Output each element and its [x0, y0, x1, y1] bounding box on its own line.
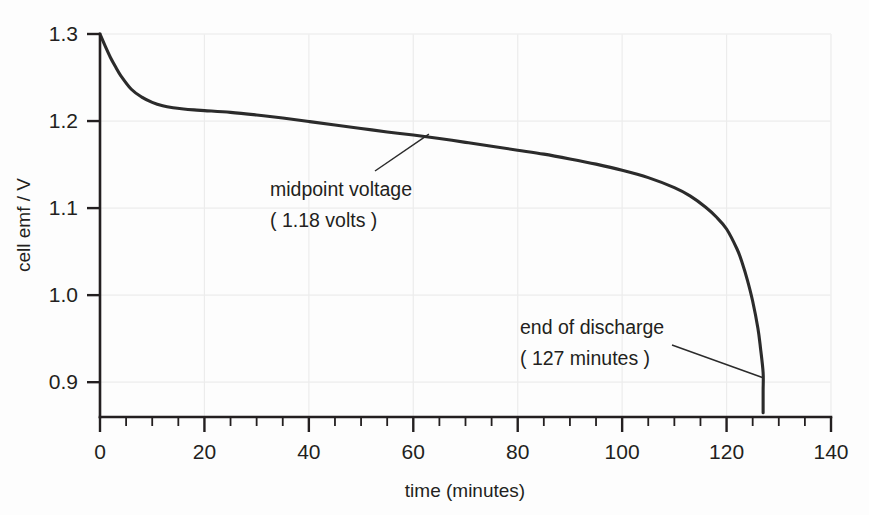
x-tick-label: 80 [506, 440, 529, 463]
x-tick-label: 140 [813, 440, 848, 463]
x-tick-label: 40 [297, 440, 320, 463]
y-tick-label: 0.9 [49, 370, 78, 393]
y-tick-label: 1.3 [49, 22, 78, 45]
midpoint-annotation-line2: ( 1.18 volts ) [270, 209, 377, 231]
x-tick-label: 60 [402, 440, 425, 463]
x-axis-title: time (minutes) [405, 480, 525, 501]
y-tick-label: 1.1 [49, 196, 78, 219]
midpoint-annotation-line1: midpoint voltage [270, 178, 412, 200]
y-axis-title: cell emf / V [13, 178, 34, 272]
x-tick-label: 20 [193, 440, 216, 463]
end-of-discharge-annotation-line1: end of discharge [520, 316, 664, 338]
end-of-discharge-annotation-line2: ( 127 minutes ) [520, 347, 650, 369]
y-tick-label: 1.2 [49, 109, 78, 132]
chart-figure: 0204060801001201400.91.01.11.21.3 midpoi… [0, 0, 869, 515]
discharge-curve-chart: 0204060801001201400.91.01.11.21.3 midpoi… [0, 0, 869, 515]
x-tick-label: 100 [605, 440, 640, 463]
chart-background [0, 0, 869, 515]
x-tick-label: 0 [94, 440, 106, 463]
x-tick-label: 120 [709, 440, 744, 463]
y-tick-label: 1.0 [49, 283, 78, 306]
